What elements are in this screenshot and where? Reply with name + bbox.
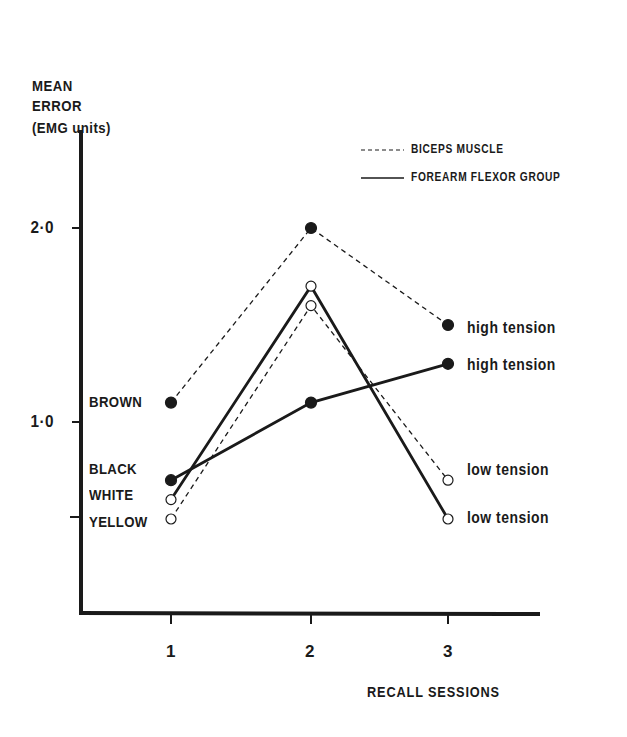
series-layer: [166, 223, 454, 525]
data-point-marker: [443, 358, 454, 369]
data-point-marker: [306, 281, 316, 291]
data-point-marker: [166, 514, 176, 524]
data-point-marker: [306, 397, 317, 408]
data-point-marker: [166, 397, 177, 408]
x-axis-line: [79, 613, 540, 614]
line-chart-plot: [0, 0, 627, 737]
data-point-marker: [443, 475, 453, 485]
data-point-marker: [166, 495, 176, 505]
data-point-marker: [443, 320, 454, 331]
data-point-marker: [443, 514, 453, 524]
series-line-1: [171, 306, 448, 519]
data-point-marker: [166, 475, 177, 486]
data-point-marker: [306, 223, 317, 234]
series-line-2: [171, 364, 448, 480]
data-point-marker: [306, 301, 316, 311]
